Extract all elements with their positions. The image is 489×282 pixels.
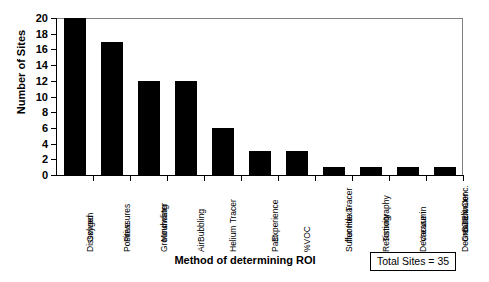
y-axis-tick-label: 4 — [22, 139, 48, 150]
x-axis-category-line: Decrease in — [418, 242, 428, 252]
x-axis-tick — [278, 176, 279, 181]
y-axis-tick — [51, 81, 57, 82]
y-axis-tick-label: 0 — [22, 170, 48, 181]
x-axis-tick — [204, 176, 205, 181]
x-axis-tick — [130, 176, 131, 181]
x-axis-category-line: BTEX Conc. — [460, 222, 470, 232]
x-axis-category-line: Tomography — [381, 232, 391, 242]
x-axis-category-line: Mounding — [159, 232, 169, 242]
bar — [397, 167, 419, 175]
bar — [249, 151, 271, 175]
bar — [64, 18, 86, 175]
y-axis-tick-label: 2 — [22, 154, 48, 165]
y-axis-tick-label: 16 — [22, 44, 48, 55]
x-axis-tick — [426, 176, 427, 181]
y-axis-tick — [51, 65, 57, 66]
x-axis-category-line: Oxygen — [85, 232, 95, 242]
bar — [175, 81, 197, 175]
x-axis-category-line: Pressures — [122, 232, 132, 242]
y-axis-tick — [51, 18, 57, 19]
x-axis-title: Method of determining ROI — [140, 254, 350, 266]
x-axis-category-line: Air — [196, 242, 206, 252]
x-axis-category-line: Sulfer Hexa- — [344, 242, 354, 252]
y-axis-tick-label: 14 — [22, 60, 48, 71]
x-axis-line — [56, 175, 464, 176]
y-axis-tick — [51, 34, 57, 35]
total-sites-annotation: Total Sites = 35 — [370, 252, 456, 271]
x-axis-tick — [352, 176, 353, 181]
x-axis-tick — [315, 176, 316, 181]
x-axis-tick — [167, 176, 168, 181]
x-axis-category-line: Dissolved — [85, 242, 95, 252]
y-axis-tick — [51, 144, 57, 145]
bar — [360, 167, 382, 175]
x-axis-category-line: Positive — [122, 242, 132, 252]
bar — [323, 167, 345, 175]
x-axis-category-line: Experience — [270, 232, 280, 242]
x-axis-tick — [389, 176, 390, 181]
bar-chart-figure: Number of Sites 02468101214161820 Dissol… — [0, 0, 489, 282]
bar — [138, 81, 160, 175]
x-axis-category-line: Bubbling — [196, 232, 206, 242]
bar — [212, 128, 234, 175]
y-axis-tick-label: 18 — [22, 29, 48, 40]
y-axis-tick-label: 10 — [22, 92, 48, 103]
x-axis-category-line: Resistivity — [381, 242, 391, 252]
x-axis-category-line: Decrease in — [460, 242, 470, 252]
x-axis-category-line: Groundwater — [159, 242, 169, 252]
x-axis-category-line: Groundwater — [460, 232, 470, 242]
bar — [101, 42, 123, 175]
bar — [434, 167, 456, 175]
y-axis-tick — [51, 175, 57, 176]
y-axis-tick — [51, 49, 57, 50]
x-axis-category-line: fluoride Tracer — [344, 232, 354, 242]
y-axis-tick-label: 6 — [22, 123, 48, 134]
bar — [286, 151, 308, 175]
x-axis-tick — [93, 176, 94, 181]
x-axis-category-line: Helium Tracer — [228, 242, 238, 252]
y-axis-tick — [51, 159, 57, 160]
y-axis-tick — [51, 112, 57, 113]
x-axis-category-line: %VOC — [302, 242, 312, 252]
x-axis-category-line: Past — [270, 242, 280, 252]
x-axis-category-line: Vacuum — [418, 232, 428, 242]
y-axis-tick-label: 12 — [22, 76, 48, 87]
x-axis-tick — [463, 176, 464, 181]
y-axis-tick-label: 8 — [22, 107, 48, 118]
x-axis-tick — [241, 176, 242, 181]
y-axis-tick — [51, 128, 57, 129]
y-axis-tick — [51, 97, 57, 98]
y-axis-tick-label: 20 — [22, 13, 48, 24]
